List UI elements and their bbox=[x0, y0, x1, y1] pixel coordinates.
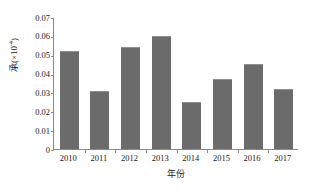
y-axis-tick-label: 0 bbox=[16, 146, 50, 155]
y-axis-tick-label: 0.07 bbox=[16, 14, 50, 23]
x-axis-tick-labels: 20102011201220132014201520162017 bbox=[53, 153, 298, 167]
plot-area bbox=[53, 18, 298, 150]
y-axis-tickmark bbox=[51, 56, 54, 57]
bar-2013 bbox=[152, 36, 171, 149]
y-axis-tick-label: 0.04 bbox=[16, 70, 50, 79]
y-axis-tick-label: 0.05 bbox=[16, 51, 50, 60]
y-axis-tickmark bbox=[51, 37, 54, 38]
y-axis-tickmark bbox=[51, 75, 54, 76]
y-axis-tick-label: 0.06 bbox=[16, 32, 50, 41]
y-axis-tick-label: 0.01 bbox=[16, 127, 50, 136]
y-axis-title-exponent: -4 bbox=[8, 41, 14, 46]
y-axis-tickmark bbox=[51, 131, 54, 132]
bar-2010 bbox=[60, 51, 79, 149]
y-axis-tick-labels: 00.010.020.030.040.050.060.07 bbox=[16, 0, 50, 192]
bar-2014 bbox=[182, 102, 201, 149]
bar-2012 bbox=[121, 47, 140, 149]
y-axis-tickmark bbox=[51, 93, 54, 94]
y-axis-tickmark bbox=[51, 150, 54, 151]
bar-2015 bbox=[213, 79, 232, 149]
bar-2017 bbox=[274, 89, 293, 149]
y-axis-tickmark bbox=[51, 18, 54, 19]
x-axis-tick-label: 2017 bbox=[263, 153, 303, 164]
y-axis-tickmark bbox=[51, 112, 54, 113]
bar-2016 bbox=[244, 64, 263, 149]
y-axis-tick-label: 0.03 bbox=[16, 89, 50, 98]
y-axis-tick-label: 0.02 bbox=[16, 108, 50, 117]
bar-2011 bbox=[90, 91, 109, 149]
x-axis-title: 年份 bbox=[53, 168, 298, 180]
bars-layer bbox=[54, 18, 298, 149]
bar-chart: 承(×10-4) 00.010.020.030.040.050.060.07 2… bbox=[0, 0, 310, 192]
